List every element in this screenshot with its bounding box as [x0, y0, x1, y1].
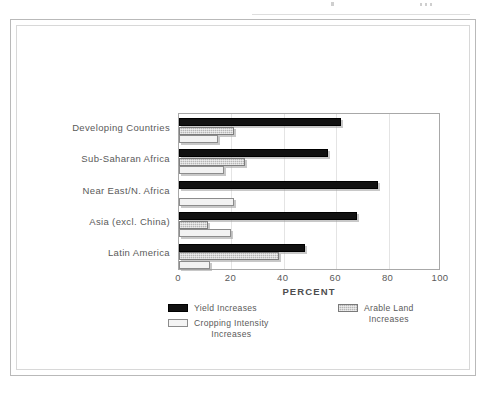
plot-area	[178, 113, 440, 270]
bar-arable	[179, 127, 234, 135]
y-axis-category-labels: Developing Countries Sub-Saharan Africa …	[18, 113, 170, 270]
legend-swatch-gray-icon	[338, 304, 358, 312]
bar-cropping	[179, 135, 218, 143]
category-label: Latin America	[20, 247, 170, 258]
legend-item-cropping-intensity-increases: Cropping Intensity Increases	[168, 318, 269, 340]
legend-item-yield-increases: Yield Increases	[168, 303, 257, 314]
x-tick-label: 20	[225, 272, 236, 283]
bar-yield	[179, 118, 341, 126]
legend-label: Cropping Intensity Increases	[194, 318, 269, 340]
legend-swatch-white-icon	[168, 319, 188, 327]
bar-arable	[179, 252, 279, 260]
bar-yield	[179, 149, 328, 157]
scan-rule-line	[252, 14, 470, 15]
category-label: Near East/N. Africa	[20, 185, 170, 196]
bar-group	[179, 115, 439, 146]
bar-yield	[179, 181, 378, 189]
x-tick-label: 60	[330, 272, 341, 283]
bar-arable	[179, 221, 208, 229]
scan-speck	[430, 3, 432, 6]
x-tick-label: 40	[277, 272, 288, 283]
scan-speck	[425, 3, 427, 6]
scan-speck	[420, 3, 422, 6]
scan-artifacts	[0, 0, 492, 18]
category-label: Developing Countries	[20, 122, 170, 133]
x-axis-ticks: 0 20 40 60 80 100	[178, 272, 440, 286]
bar-arable	[179, 158, 245, 166]
category-label: Asia (excl. China)	[20, 216, 170, 227]
bar-cropping	[179, 198, 234, 206]
bar-group	[179, 178, 439, 209]
bar-yield	[179, 212, 357, 220]
x-tick-label: 0	[175, 272, 181, 283]
bar-group	[179, 241, 439, 272]
bar-group	[179, 209, 439, 240]
scan-speck	[331, 2, 334, 6]
bar-cropping	[179, 229, 231, 237]
bar-yield	[179, 244, 305, 252]
legend-swatch-black-icon	[168, 304, 188, 312]
legend-item-arable-land-increases: Arable Land Increases	[338, 303, 414, 325]
legend-label: Arable Land Increases	[364, 303, 414, 325]
x-tick-label: 80	[382, 272, 393, 283]
chart-legend: Yield Increases Arable Land Increases Cr…	[168, 303, 458, 355]
bar-group	[179, 146, 439, 177]
category-label: Sub-Saharan Africa	[20, 153, 170, 164]
x-axis-title: PERCENT	[178, 286, 440, 297]
bar-cropping	[179, 166, 224, 174]
x-tick-label: 100	[431, 272, 448, 283]
legend-label: Yield Increases	[194, 303, 257, 314]
bar-cropping	[179, 261, 210, 269]
